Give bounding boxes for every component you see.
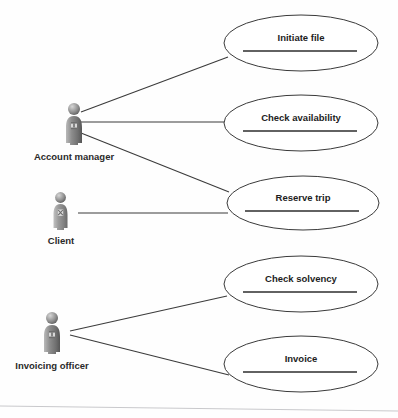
use-case-ellipse [224, 336, 378, 392]
use-case-check-solvency[interactable]: Check solvency [224, 256, 378, 312]
use-case-ellipse [224, 256, 378, 312]
use-case-label: Reserve trip [276, 192, 331, 203]
assoc-am-reserve-trip [81, 133, 229, 192]
assoc-io-invoice [70, 335, 229, 375]
use-case-reserve-trip[interactable]: Reserve trip [227, 176, 379, 230]
person-actor-icon [44, 312, 60, 354]
actor-invoicing-officer[interactable]: Invoicing officer [15, 312, 89, 371]
use-case-label: Initiate file [278, 32, 325, 43]
association-lines [70, 57, 229, 375]
use-case-ellipse [227, 176, 379, 230]
use-case-ellipse [224, 95, 378, 151]
use-case-diagram: Initiate file Check availability Reserve… [0, 0, 398, 418]
person-actor-icon [66, 103, 82, 145]
assoc-am-initiate-file [81, 57, 228, 112]
use-case-label: Check solvency [265, 273, 338, 284]
page-edge-line [0, 406, 398, 411]
person-actor-icon [54, 192, 68, 230]
use-case-ellipse [224, 15, 378, 71]
actor-client[interactable]: Client [48, 192, 75, 246]
use-case-label: Check availability [261, 112, 341, 123]
actor-label: Account manager [34, 151, 115, 162]
assoc-io-check-solvency [70, 296, 227, 331]
use-case-label: Invoice [285, 353, 318, 364]
use-case-invoice[interactable]: Invoice [224, 336, 378, 392]
actor-label: Client [48, 235, 75, 246]
use-case-check-availability[interactable]: Check availability [224, 95, 378, 151]
actor-account-manager[interactable]: Account manager [34, 103, 115, 162]
diagram-canvas: Initiate file Check availability Reserve… [0, 0, 398, 418]
actor-label: Invoicing officer [15, 360, 89, 371]
use-case-initiate-file[interactable]: Initiate file [224, 15, 378, 71]
